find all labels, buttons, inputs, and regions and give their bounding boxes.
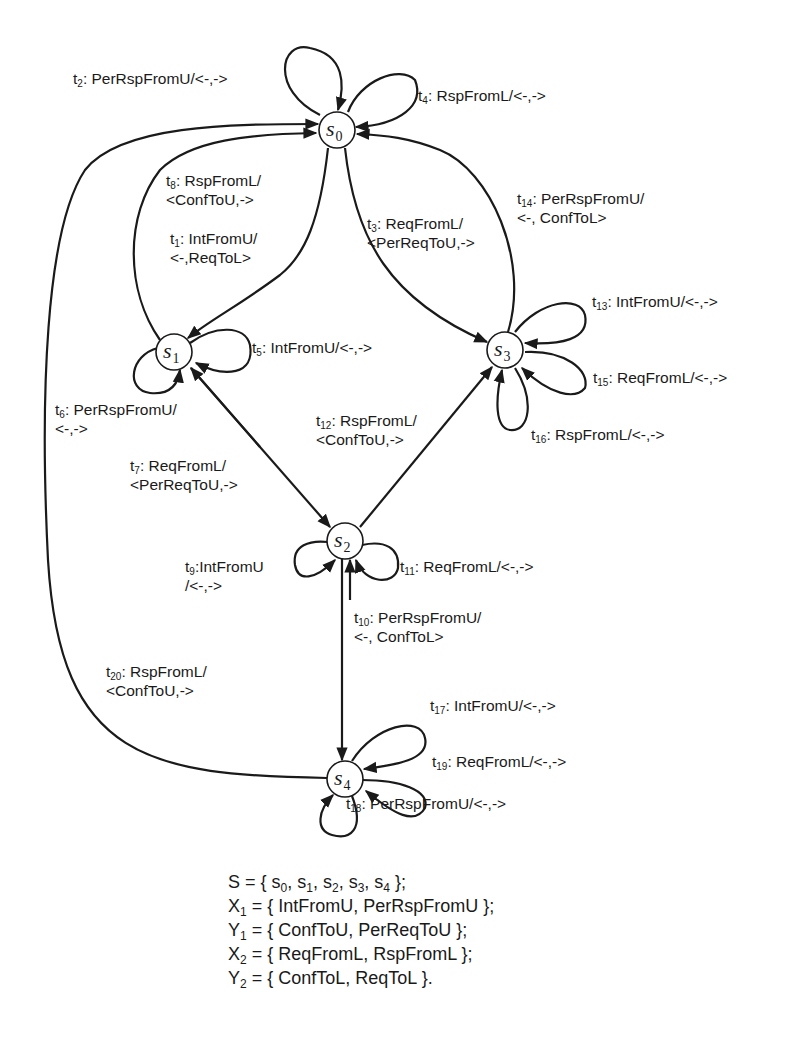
edge-t4 <box>348 74 417 127</box>
edge-t13 <box>515 303 586 343</box>
state-s1: s1 <box>156 334 192 370</box>
label-t9: t9:IntFromU/<-,-> <box>185 557 264 595</box>
label-t10: t10: PerRspFromU/<-, ConfToL> <box>354 608 481 646</box>
label-t15: t15: ReqFromL/<-,-> <box>593 368 727 387</box>
label-t5: t5: IntFromU/<-,-> <box>252 338 372 357</box>
edge-t15 <box>522 352 586 394</box>
label-t14: t14: PerRspFromU/<-, ConfToL> <box>517 189 644 227</box>
def-X2: X2 = { ReqFromL, RspFromL }; <box>228 942 494 966</box>
label-t20: t20: RspFromL/<ConfToU,-> <box>106 662 207 700</box>
label-t17: t17: IntFromU/<-,-> <box>430 696 556 715</box>
state-s0: s0 <box>319 112 355 148</box>
def-Y1: Y1 = { ConfToU, PerReqToU }; <box>228 918 494 942</box>
label-t12: t12: RspFromL/<ConfToU,-> <box>316 411 417 449</box>
label-t1: t1: IntFromU/<-,ReqToL> <box>170 229 257 267</box>
edge-t11 <box>356 544 398 580</box>
state-s4: s4 <box>327 761 363 797</box>
label-t3: t3: ReqFromL/<PerReqToU,-> <box>367 214 475 252</box>
edge-t7-tail-arrow <box>191 368 260 447</box>
label-t18: t18: PerRspFromU/<-,-> <box>346 794 506 813</box>
label-t4: t4: RspFromL/<-,-> <box>418 86 546 105</box>
edge-t5 <box>190 330 251 372</box>
def-Y2: Y2 = { ConfToL, ReqToL }. <box>228 966 494 990</box>
edge-t2 <box>285 47 342 115</box>
state-s2: s2 <box>327 523 363 559</box>
edge-t16 <box>497 368 527 430</box>
set-definitions: S = { s0, s1, s2, s3, s4 }; X1 = { IntFr… <box>228 870 494 990</box>
label-t13: t13: IntFromU/<-,-> <box>592 292 718 311</box>
label-t16: t16: RspFromL/<-,-> <box>531 425 664 444</box>
label-t8: t8: RspFromL/<ConfToU,-> <box>166 171 261 209</box>
label-t7: t7: ReqFromL/<PerReqToU,-> <box>130 456 238 494</box>
state-s3: s3 <box>487 332 523 368</box>
label-t11: t11: ReqFromL/<-,-> <box>400 557 534 576</box>
edge-t17 <box>352 726 425 769</box>
label-t19: t19: ReqFromL/<-,-> <box>432 752 566 771</box>
label-t2: t2: PerRspFromU/<-,-> <box>73 69 228 88</box>
label-t6: t6: PerRspFromU/<-,-> <box>55 400 177 438</box>
def-X1: X1 = { IntFromU, PerRspFromU }; <box>228 894 494 918</box>
def-S: S = { s0, s1, s2, s3, s4 }; <box>228 870 494 894</box>
clipped-caption <box>12 1030 802 1040</box>
